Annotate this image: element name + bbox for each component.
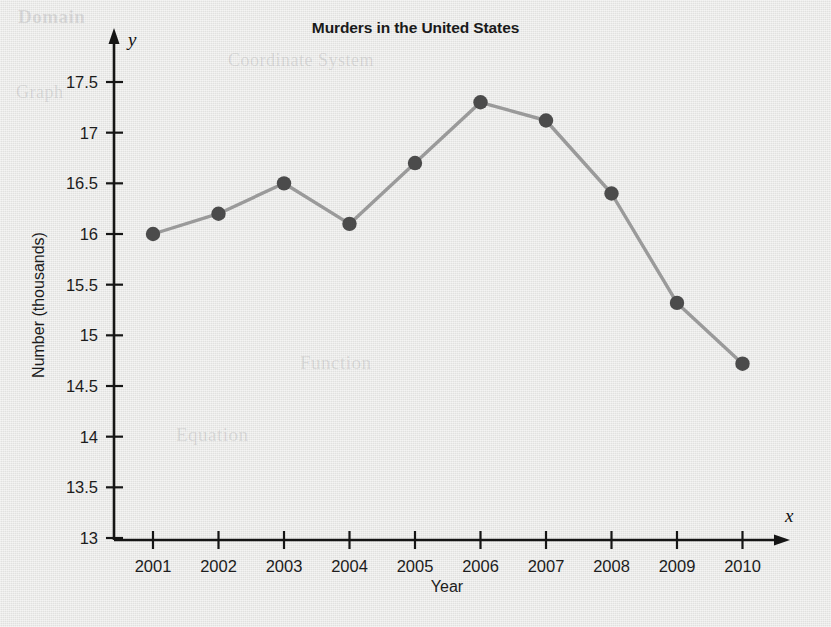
x-axis-name-label: x bbox=[784, 505, 794, 526]
y-axis-arrow-icon bbox=[109, 28, 120, 44]
x-axis-tick-label: 2010 bbox=[724, 557, 761, 575]
data-point-2003 bbox=[277, 176, 291, 190]
x-axis-tick-labels: 2001200220032004200520062007200820092010 bbox=[135, 557, 761, 575]
y-axis-tick-label: 14 bbox=[80, 428, 98, 446]
x-axis-tick-label: 2005 bbox=[397, 557, 434, 575]
data-point-2005 bbox=[408, 156, 422, 170]
y-axis-tick-label: 15.5 bbox=[66, 276, 98, 294]
x-axis-tick-label: 2006 bbox=[462, 557, 499, 575]
data-point-2008 bbox=[604, 186, 618, 200]
y-axis-tick-label: 16 bbox=[80, 225, 98, 243]
y-axis-tick-label: 15 bbox=[80, 326, 98, 344]
data-point-markers bbox=[146, 95, 750, 371]
data-point-2001 bbox=[146, 227, 160, 241]
y-axis-tick-label: 13 bbox=[80, 529, 98, 547]
y-axis-name-label: y bbox=[126, 29, 137, 50]
x-axis-tick-label: 2009 bbox=[659, 557, 696, 575]
chart-figure: Domain Coordinate System Graph Function … bbox=[0, 0, 831, 627]
data-point-2004 bbox=[342, 217, 356, 231]
x-axis-title: Year bbox=[431, 578, 464, 595]
x-axis-tick-label: 2003 bbox=[266, 557, 303, 575]
data-point-2010 bbox=[735, 357, 749, 371]
x-axis-tick-label: 2001 bbox=[135, 557, 172, 575]
data-point-2009 bbox=[670, 296, 684, 310]
y-axis-title: Number (thousands) bbox=[30, 232, 47, 378]
data-point-2006 bbox=[473, 95, 487, 109]
y-axis-tick-label: 16.5 bbox=[66, 174, 98, 192]
data-point-2007 bbox=[539, 113, 553, 127]
x-axis-tick-label: 2007 bbox=[528, 557, 565, 575]
x-axis-tick-label: 2004 bbox=[331, 557, 368, 575]
data-series-line bbox=[153, 102, 743, 363]
data-point-2002 bbox=[211, 207, 225, 221]
y-axis-tick-label: 14.5 bbox=[66, 377, 98, 395]
x-axis-tick-label: 2002 bbox=[200, 557, 237, 575]
y-axis-tick-label: 17 bbox=[80, 124, 98, 142]
x-axis-tick-label: 2008 bbox=[593, 557, 630, 575]
y-axis-tick-label: 17.5 bbox=[66, 73, 98, 91]
y-axis-tick-label: 13.5 bbox=[66, 478, 98, 496]
chart-plot-area: y x 17.51716.51615.51514.51413.513 20012… bbox=[0, 0, 831, 627]
y-axis-tick-labels: 17.51716.51615.51514.51413.513 bbox=[66, 73, 98, 547]
x-axis-arrow-icon bbox=[774, 535, 790, 546]
